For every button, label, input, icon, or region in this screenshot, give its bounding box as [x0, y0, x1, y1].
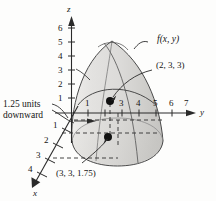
y-tick-6: 6: [169, 98, 174, 108]
note-line-1: 1.25 units: [3, 99, 40, 109]
x-tick-4: 4: [28, 164, 33, 174]
z-axis-arrowhead: [68, 16, 75, 26]
y-tick-3: 3: [119, 98, 124, 108]
point-marker-upper: [106, 97, 114, 105]
y-tick-5: 5: [153, 98, 158, 108]
surface-function-label: f(x, y): [157, 34, 179, 44]
x-tick-1: 1: [53, 120, 58, 130]
figure-3d-surface-plot: z 6 5 4 3 2 1 y 1 3 4 5 6 7 x 1 2 3 4 f(…: [0, 0, 216, 201]
y-tick-4: 4: [136, 98, 141, 108]
z-axis-label: z: [67, 4, 71, 14]
z-tick-1: 1: [58, 93, 63, 103]
point-label-upper: (2, 3, 3): [156, 60, 185, 70]
y-axis-arrowhead: [186, 110, 196, 117]
y-axis-label: y: [200, 107, 204, 117]
leader-to-surface-label: [134, 41, 148, 49]
x-tick-3: 3: [36, 150, 41, 160]
x-axis-arrowhead: [31, 177, 40, 188]
y-tick-7: 7: [184, 98, 189, 108]
z-tick-3: 3: [58, 65, 63, 75]
x-axis-label: x: [33, 188, 37, 198]
z-tick-5: 5: [58, 37, 63, 47]
z-tick-2: 2: [58, 79, 63, 89]
z-tick-6: 6: [58, 23, 63, 33]
y-tick-1: 1: [85, 98, 90, 108]
note-line-2: downward: [3, 110, 43, 120]
point-label-lower: (3, 3, 1.75): [56, 168, 96, 178]
x-tick-2: 2: [44, 135, 49, 145]
z-tick-4: 4: [58, 51, 63, 61]
